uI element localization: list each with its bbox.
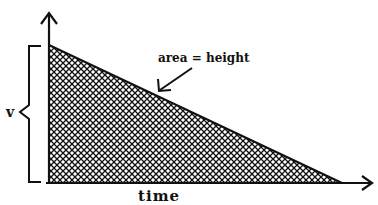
area-annotation: area = height — [158, 51, 250, 65]
x-axis-label: time — [138, 187, 180, 205]
annotation-arrow-icon — [158, 68, 192, 91]
diagram-canvas: v area = height time — [0, 0, 378, 205]
v-label: v — [5, 104, 15, 120]
area-triangle — [49, 45, 342, 183]
height-bracket — [20, 46, 41, 182]
